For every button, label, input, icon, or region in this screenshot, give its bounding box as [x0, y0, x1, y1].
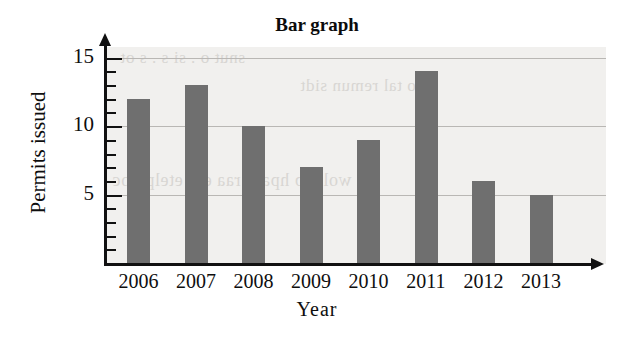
y-minor-tick-11 [107, 112, 116, 114]
y-axis-title: Permits issued [26, 58, 51, 248]
y-major-tick-10 [107, 126, 122, 128]
y-tick-label-10: 10 [52, 112, 94, 137]
x-tick-label-2013: 2013 [510, 270, 572, 293]
x-tick-label-2011: 2011 [395, 270, 457, 293]
x-tick-label-2012: 2012 [453, 270, 515, 293]
bar-2006 [127, 99, 150, 263]
y-minor-tick-8 [107, 154, 116, 156]
chart-title: Bar graph [0, 14, 634, 36]
bar-2012 [472, 181, 495, 263]
y-minor-tick-4 [107, 208, 116, 210]
y-minor-tick-13 [107, 85, 116, 87]
x-tick-label-2010: 2010 [338, 270, 400, 293]
y-minor-tick-1 [107, 249, 116, 251]
y-minor-tick-9 [107, 140, 116, 142]
bar-2009 [300, 167, 323, 263]
x-tick-label-2007: 2007 [165, 270, 227, 293]
x-axis-arrow-icon [591, 258, 604, 270]
bar-2010 [357, 140, 380, 263]
gridline-15 [104, 58, 606, 59]
x-tick-label-2009: 2009 [280, 270, 342, 293]
bar-chart-figure: snut o . si s . s ot ano tal remun sidt … [0, 0, 634, 343]
x-axis-line [104, 263, 593, 266]
y-major-tick-5 [107, 195, 122, 197]
gridline-10 [104, 126, 606, 127]
ghost-text-line-2: ano tal remun sidt [300, 76, 433, 96]
y-minor-tick-14 [107, 71, 116, 73]
y-major-tick-15 [107, 58, 122, 60]
x-axis-title: Year [0, 298, 634, 321]
y-tick-label-5: 5 [52, 181, 94, 206]
x-tick-label-2008: 2008 [223, 270, 285, 293]
bar-2008 [242, 126, 265, 263]
y-minor-tick-12 [107, 99, 116, 101]
y-minor-tick-2 [107, 236, 116, 238]
y-tick-label-15: 15 [52, 44, 94, 69]
bar-2013 [530, 195, 553, 263]
y-minor-tick-3 [107, 222, 116, 224]
bar-2011 [415, 71, 438, 263]
bar-2007 [185, 85, 208, 263]
y-minor-tick-7 [107, 167, 116, 169]
x-tick-label-2006: 2006 [108, 270, 170, 293]
y-minor-tick-6 [107, 181, 116, 183]
